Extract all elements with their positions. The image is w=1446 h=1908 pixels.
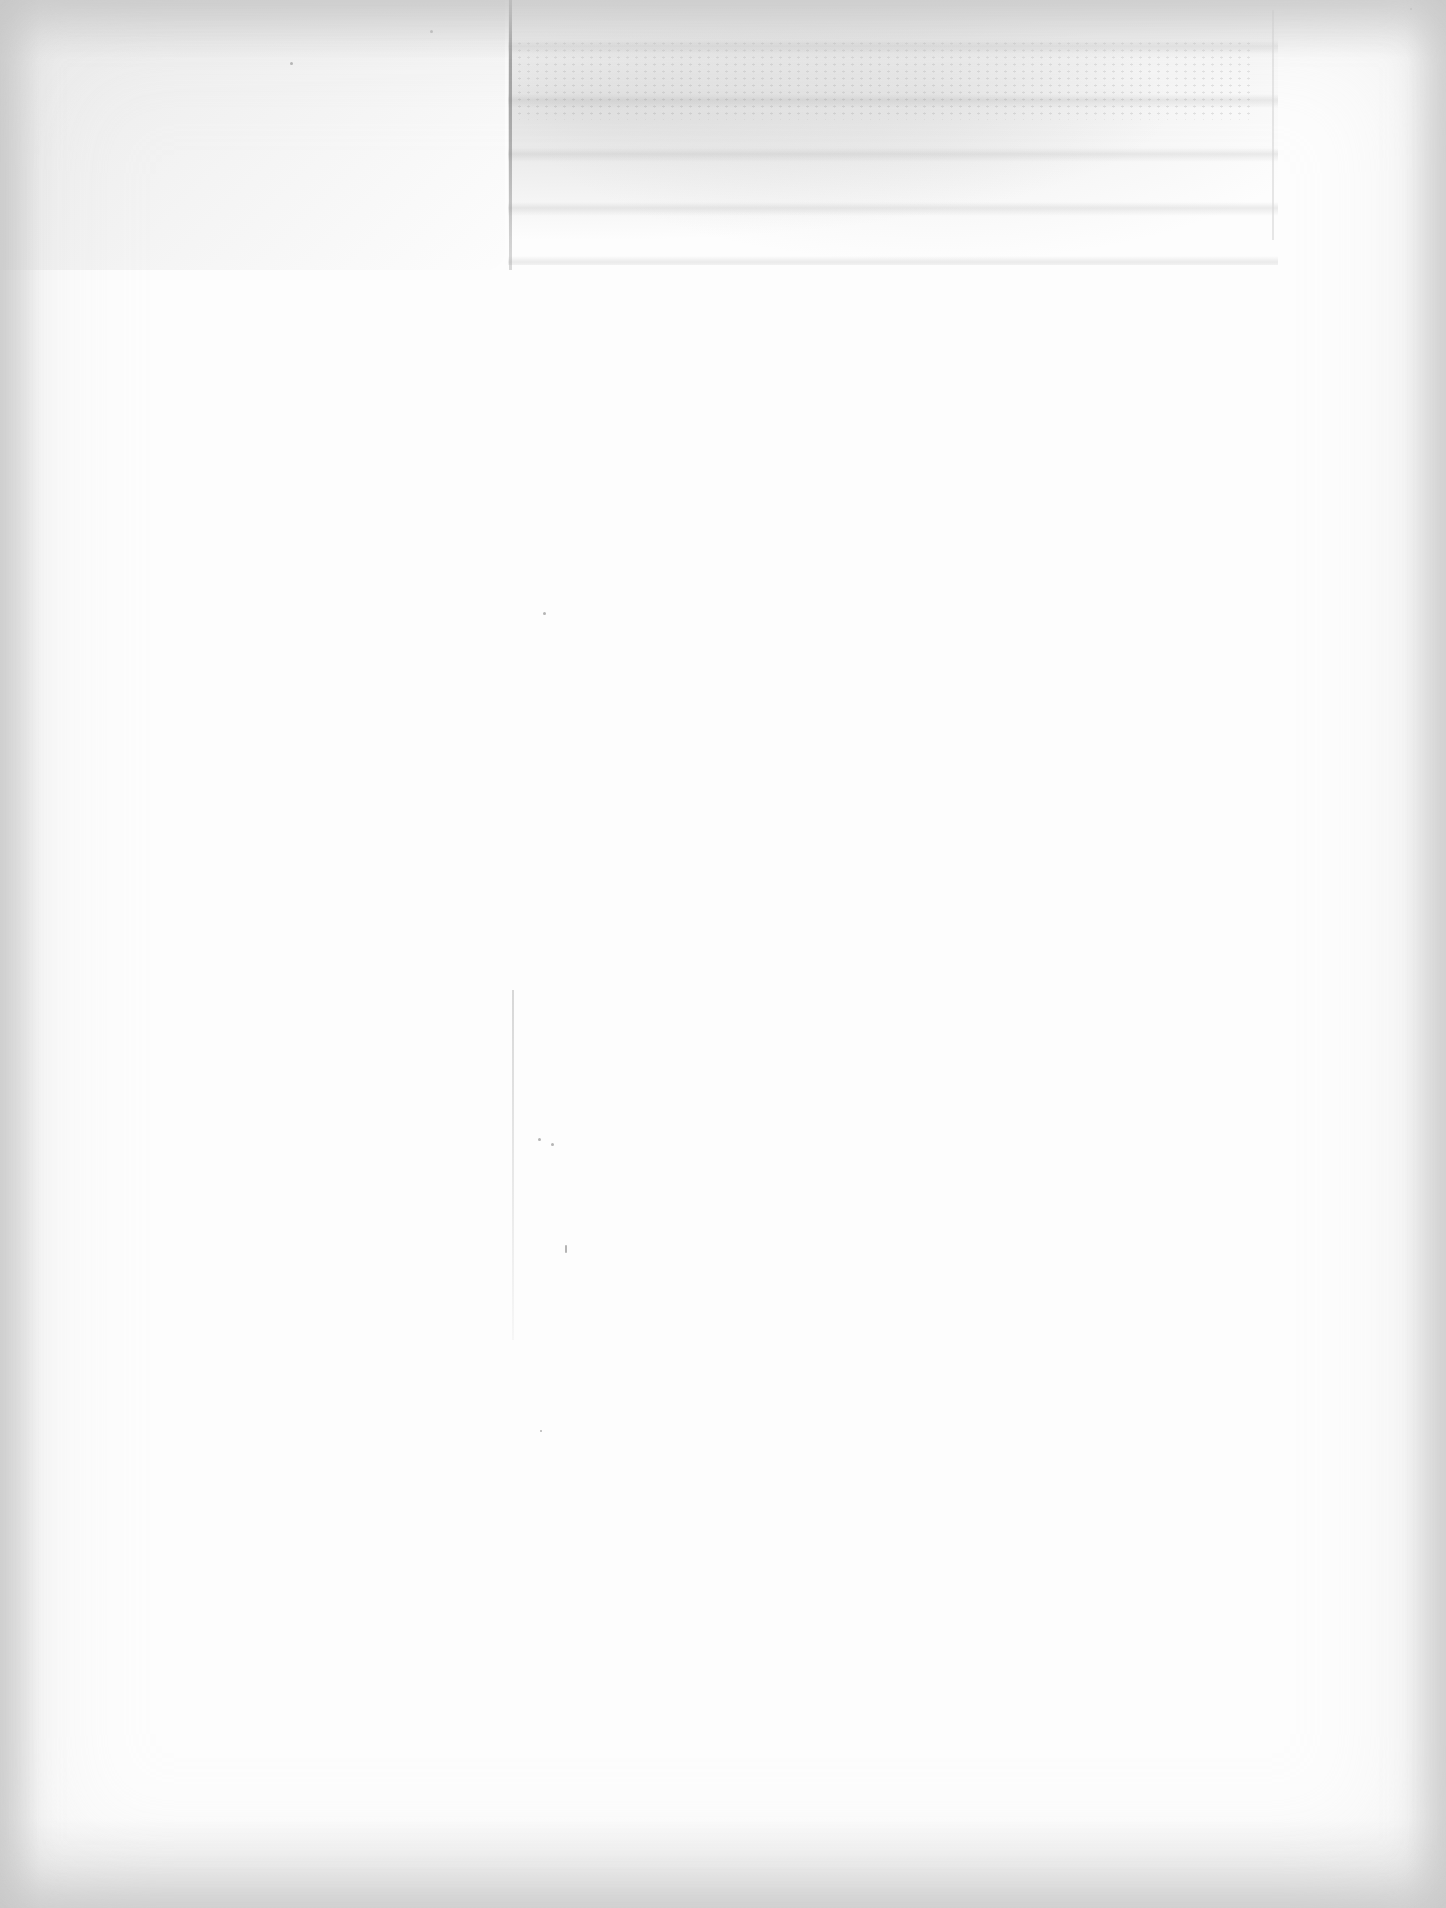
scan-speck (565, 1245, 567, 1253)
scan-right-shadow (1406, 0, 1446, 1908)
scan-speck (551, 1143, 554, 1146)
scan-speck (290, 62, 293, 65)
scan-speck (540, 1430, 542, 1432)
scan-speck (543, 612, 546, 615)
scan-speck (538, 1138, 541, 1141)
scan-bottom-shadow (0, 1818, 1446, 1908)
scan-vignette (0, 0, 1446, 1908)
faint-edge-line (512, 990, 514, 1340)
scan-left-shadow (0, 0, 40, 1908)
scanned-page (0, 0, 1446, 1908)
scan-top-shadow (0, 0, 1446, 60)
